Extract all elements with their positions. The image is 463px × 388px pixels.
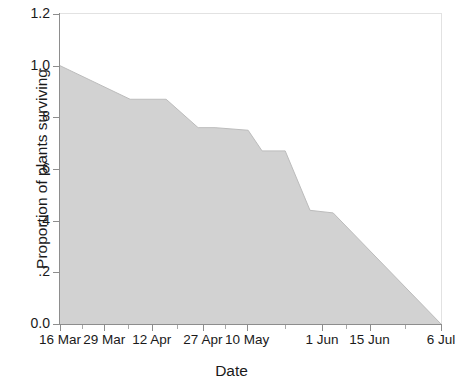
x-tick-major — [441, 325, 442, 331]
x-tick-major — [203, 325, 204, 331]
x-tick-minor — [225, 325, 226, 329]
y-tick-0.0 — [53, 324, 59, 325]
x-tick-major — [247, 325, 248, 331]
x-tick-label: 10 May — [207, 332, 287, 347]
y-tick-label: .2 — [0, 263, 50, 279]
y-axis-line — [59, 13, 60, 325]
y-tick-1.0 — [53, 66, 59, 67]
x-tick-label: 15 Jun — [330, 332, 410, 347]
plot-frame-right-border — [441, 13, 442, 324]
x-tick-major — [152, 325, 153, 331]
survival-line-path — [60, 66, 441, 324]
y-axis-tick-labels: 0.0.2.4.6.81.01.2 — [0, 0, 50, 388]
x-tick-major — [104, 325, 105, 331]
x-tick-minor — [346, 325, 347, 329]
x-tick-minor — [82, 325, 83, 329]
y-tick-label: 1.2 — [0, 5, 50, 21]
x-tick-minor — [405, 325, 406, 329]
x-axis-line — [59, 324, 442, 325]
series-area-plot — [0, 0, 463, 388]
x-tick-minor — [177, 325, 178, 329]
survival-area-path — [60, 66, 441, 324]
x-tick-label: 6 Jul — [401, 332, 463, 347]
y-tick-label: .8 — [0, 108, 50, 124]
y-tick-label: 1.0 — [0, 57, 50, 73]
x-tick-major — [60, 325, 61, 331]
y-tick-.6 — [53, 169, 59, 170]
x-tick-major — [370, 325, 371, 331]
y-tick-1.2 — [53, 14, 59, 15]
y-tick-.8 — [53, 117, 59, 118]
y-tick-label: .4 — [0, 212, 50, 228]
x-tick-major — [322, 325, 323, 331]
survival-area-chart: Proportion of plants surviving 0.0.2.4.6… — [0, 0, 463, 388]
x-tick-minor — [285, 325, 286, 329]
x-tick-minor — [128, 325, 129, 329]
y-tick-.4 — [53, 221, 59, 222]
y-tick-.2 — [53, 272, 59, 273]
y-tick-label: 0.0 — [0, 315, 50, 331]
y-tick-label: .6 — [0, 160, 50, 176]
plot-frame-top-border — [60, 13, 442, 14]
x-axis-title: Date — [0, 362, 463, 380]
